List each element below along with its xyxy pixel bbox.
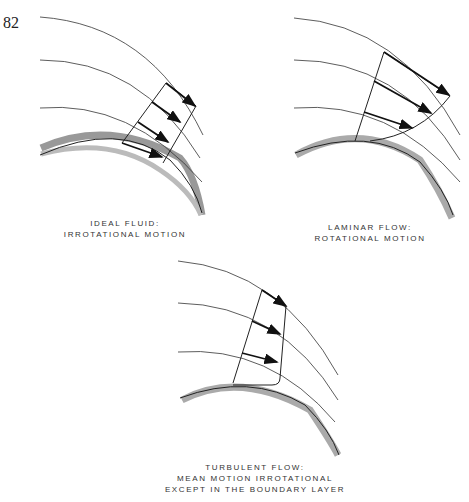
caption-line: IDEAL FLUID: <box>55 218 195 229</box>
caption-laminar: LAMINAR FLOW: ROTATIONAL MOTION <box>300 222 440 244</box>
caption-line: IRROTATIONAL MOTION <box>55 229 195 240</box>
caption-line: MEAN MOTION IRROTATIONAL <box>160 473 350 484</box>
caption-line: EXCEPT IN THE BOUNDARY LAYER <box>160 484 350 495</box>
caption-turbulent: TURBULENT FLOW: MEAN MOTION IRROTATIONAL… <box>160 462 350 495</box>
caption-ideal: IDEAL FLUID: IRROTATIONAL MOTION <box>55 218 195 240</box>
panel-ideal-fluid <box>40 17 203 215</box>
caption-line: TURBULENT FLOW: <box>160 462 350 473</box>
flow-diagrams <box>0 0 469 502</box>
caption-line: ROTATIONAL MOTION <box>300 233 440 244</box>
panel-turbulent-flow <box>178 261 339 455</box>
caption-line: LAMINAR FLOW: <box>300 222 440 233</box>
panel-laminar-flow <box>294 18 460 218</box>
